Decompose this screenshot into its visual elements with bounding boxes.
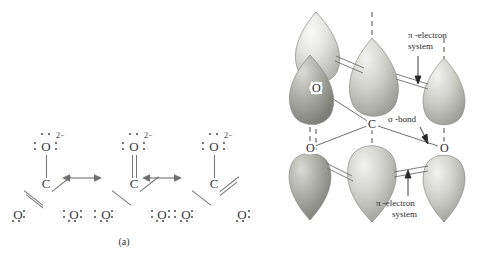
lone-pair-dot — [111, 210, 113, 212]
pi-label-line-2: system — [408, 41, 447, 52]
bond-c-to-bottom-right-oxygen — [220, 176, 240, 192]
panel-a-caption: (a) — [104, 236, 144, 247]
lone-pair-dot — [100, 220, 102, 222]
lone-pair-dot — [162, 220, 164, 222]
charge-label: 2− — [144, 132, 153, 140]
lone-pair-dot — [151, 210, 153, 212]
lone-pair-dot — [223, 148, 225, 150]
resonance-structure-3: 2− O C O O — [176, 128, 252, 228]
lone-pair-dot — [34, 142, 36, 144]
lone-pair-dot — [151, 216, 153, 218]
pi-electron-system-label-bottom: π -electron system — [376, 198, 417, 220]
oxygen-label-lower-left: O — [305, 142, 316, 154]
lone-pair-dot — [122, 148, 124, 150]
lone-pair-dot — [74, 220, 76, 222]
panel-a-lewis-structures: 2− O C O O — [0, 0, 248, 261]
chemistry-figure: 2− O C O O — [0, 0, 494, 261]
lone-pair-dot — [18, 220, 20, 222]
lone-pair-dot — [68, 220, 70, 222]
lone-pair-dot — [55, 148, 57, 150]
pi-label-line-1: π -electron — [376, 198, 417, 209]
bond-c-to-bottom-left-oxygen — [192, 190, 212, 206]
lone-pair-dot — [80, 210, 82, 212]
carbon-center-label: C — [39, 177, 53, 190]
lone-pair-dot — [143, 142, 145, 144]
lone-pair-dot — [63, 210, 65, 212]
lone-pair-dot — [94, 216, 96, 218]
oxygen-label-upper-left: O — [311, 82, 322, 94]
lone-pair-dot — [111, 216, 113, 218]
lone-pair-dot — [174, 210, 176, 212]
oxygen-top-label: O — [207, 140, 221, 153]
lone-pair-dot — [168, 216, 170, 218]
lone-pair-dot — [143, 148, 145, 150]
panel-b-orbital-diagram: O O O C π -electron system σ -bond π -el… — [248, 0, 494, 261]
lone-pair-dot — [168, 210, 170, 212]
charge-label: 2− — [56, 132, 65, 140]
lone-pair-dot — [23, 216, 25, 218]
lone-pair-dot — [202, 142, 204, 144]
lone-pair-dot — [136, 133, 138, 135]
lone-pair-dot — [191, 216, 193, 218]
orbital-lobe-bottom-right — [423, 155, 465, 222]
lone-pair-dot — [216, 133, 218, 135]
lone-pair-dot — [12, 220, 14, 222]
oxygen-top-label: O — [39, 140, 53, 153]
pi-label-line-1: π -electron — [408, 30, 447, 41]
lone-pair-dot — [129, 133, 131, 135]
charge-label: 2− — [224, 132, 233, 140]
bond-c-to-top-oxygen — [214, 155, 215, 178]
lone-pair-dot — [23, 210, 25, 212]
lone-pair-dot — [55, 142, 57, 144]
lone-pair-dot — [191, 210, 193, 212]
bond-c-to-bottom-left-oxygen — [24, 190, 44, 206]
carbon-center-label: C — [207, 177, 221, 190]
pi-label-line-2: system — [392, 209, 417, 220]
lone-pair-dot — [156, 220, 158, 222]
carbon-label-center: C — [367, 118, 377, 130]
lone-pair-dot — [180, 220, 182, 222]
orbital-lobe-bottom-left — [289, 153, 331, 220]
bond-c-to-bottom-left-oxygen-second — [26, 194, 44, 208]
lone-pair-dot — [186, 220, 188, 222]
sigma-bond-label: σ -bond — [388, 114, 416, 125]
lone-pair-dot — [48, 133, 50, 135]
lone-pair-dot — [242, 220, 244, 222]
bond-c-to-top-oxygen-second — [136, 155, 137, 178]
orbital-lobe-top-right — [423, 58, 465, 125]
lone-pair-dot — [236, 220, 238, 222]
lone-pair-dot — [202, 148, 204, 150]
lone-pair-dot — [174, 216, 176, 218]
orbital-lobe-top-center — [349, 38, 398, 116]
lone-pair-dot — [34, 148, 36, 150]
lone-pair-dot — [94, 210, 96, 212]
lone-pair-dot — [41, 133, 43, 135]
pi-electron-system-label-top: π -electron system — [408, 30, 447, 52]
lone-pair-dot — [63, 216, 65, 218]
lone-pair-dot — [223, 142, 225, 144]
lone-pair-dot — [209, 133, 211, 135]
oxygen-top-label: O — [127, 140, 141, 153]
lone-pair-dot — [80, 216, 82, 218]
bond-c-to-top-oxygen — [132, 155, 133, 178]
oxygen-label-right: O — [439, 142, 450, 154]
lone-pair-dot — [106, 220, 108, 222]
carbon-center-label: C — [127, 177, 141, 190]
lone-pair-dot — [122, 142, 124, 144]
bond-c-to-top-oxygen — [46, 155, 47, 178]
bond-c-to-bottom-left-oxygen — [112, 190, 132, 206]
